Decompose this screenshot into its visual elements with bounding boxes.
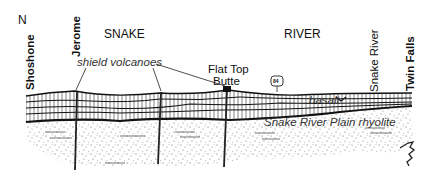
rhyolite-label: Snake River Plain rhyolite	[264, 116, 396, 128]
town-shoshone: Shoshone	[24, 34, 36, 90]
snake-river-label: Snake River	[368, 29, 380, 92]
flat-top-label: Flat Top	[208, 63, 249, 75]
basalt-label: basalt	[309, 94, 340, 106]
highway-number: 84	[273, 78, 279, 84]
town-twin-falls: Twin Falls	[404, 36, 416, 91]
cross-section-figure: N SNAKE RIVER Shoshone Jerome Snake Rive…	[0, 0, 438, 183]
north-label: N	[18, 13, 27, 27]
river-region-label: RIVER	[284, 27, 321, 41]
snake-region-label: SNAKE	[104, 27, 145, 41]
shield-volcanoes-label: shield volcanoes	[77, 56, 162, 68]
butte-label: Butte	[213, 75, 240, 87]
town-jerome: Jerome	[70, 16, 82, 57]
